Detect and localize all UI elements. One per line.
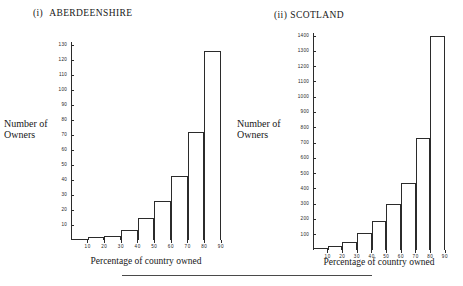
histogram-bar	[188, 132, 205, 240]
panel-title-aberdeenshire: (i)ABERDEENSHIRE	[33, 8, 132, 18]
histogram-bar	[71, 239, 88, 241]
panel-title-text: SCOTLAND	[290, 10, 344, 20]
histogram-bar	[171, 176, 188, 241]
x-tick-mark	[121, 240, 122, 243]
x-tick-mark	[415, 250, 416, 253]
x-tick-label: 40	[135, 244, 141, 250]
histogram-bar	[416, 138, 431, 250]
histogram-bar	[138, 218, 155, 241]
x-tick-label: 90	[442, 254, 448, 260]
y-tick-mark	[313, 66, 316, 67]
plot-area-aberdeenshire: 1020304050607080901001101201301020304050…	[71, 42, 221, 240]
y-tick-label: 70	[61, 131, 67, 138]
x-tick-mark	[430, 250, 431, 253]
histogram-bar	[430, 36, 445, 250]
y-tick-label: 50	[61, 161, 67, 168]
y-tick-mark	[71, 135, 74, 136]
x-tick-label: 20	[101, 244, 107, 250]
y-tick-mark	[313, 36, 316, 37]
y-tick-label: 1000	[298, 93, 309, 100]
footer-rule	[122, 275, 372, 276]
y-tick-mark	[313, 81, 316, 82]
x-tick-label: 90	[218, 244, 224, 250]
y-tick-label: 80	[61, 116, 67, 123]
y-tick-mark	[313, 127, 316, 128]
y-tick-label: 200	[301, 215, 309, 222]
y-tick-mark	[71, 150, 74, 151]
y-tick-label: 100	[59, 86, 67, 93]
histogram-bar	[328, 246, 343, 250]
y-tick-mark	[313, 188, 316, 189]
panel-numeral: (i)	[33, 8, 43, 18]
y-tick-mark	[71, 105, 74, 106]
y-tick-label: 400	[301, 185, 309, 192]
y-tick-label: 20	[61, 206, 67, 213]
panel-numeral: (ii)	[274, 10, 287, 20]
y-tick-label: 800	[301, 124, 309, 131]
y-tick-mark	[313, 204, 316, 205]
y-tick-mark	[71, 165, 74, 166]
x-tick-mark	[187, 240, 188, 243]
y-tick-mark	[71, 195, 74, 196]
x-tick-mark	[445, 250, 446, 253]
y-tick-mark	[313, 234, 316, 235]
x-tick-mark	[371, 250, 372, 253]
y-tick-label: 10	[61, 221, 67, 228]
histogram-bar	[401, 183, 416, 250]
x-tick-mark	[342, 250, 343, 253]
y-tick-mark	[313, 112, 316, 113]
panel-title-text: ABERDEENSHIRE	[49, 8, 132, 18]
y-tick-label: 40	[61, 176, 67, 183]
y-tick-label: 110	[59, 71, 67, 78]
x-tick-label: 10	[85, 244, 91, 250]
y-axis-caption-line1: Number of	[4, 118, 48, 129]
y-tick-label: 600	[301, 154, 309, 161]
y-axis-caption-aberdeenshire: Number of Owners	[4, 118, 48, 140]
x-tick-mark	[87, 240, 88, 243]
y-axis-caption-line2: Owners	[237, 129, 281, 140]
x-tick-mark	[154, 240, 155, 243]
y-tick-label: 1300	[298, 47, 309, 54]
y-axis-caption-line1: Number of	[237, 118, 281, 129]
y-tick-label: 1200	[298, 63, 309, 70]
y-axis-caption-line2: Owners	[4, 129, 48, 140]
plot-area-scotland: 1002003004005006007008009001000110012001…	[313, 33, 445, 250]
y-axis-caption-scotland: Number of Owners	[237, 118, 281, 140]
x-tick-mark	[171, 240, 172, 243]
y-tick-mark	[313, 143, 316, 144]
histogram-bar	[88, 237, 105, 240]
y-tick-label: 300	[301, 200, 309, 207]
y-tick-label: 60	[61, 146, 67, 153]
panel-title-scotland: (ii)SCOTLAND	[274, 10, 344, 20]
x-axis-caption-scotland: Percentage of country owned	[323, 257, 434, 267]
histogram-bar	[121, 230, 138, 241]
histogram-bar	[386, 204, 401, 250]
y-tick-label: 1400	[298, 32, 309, 39]
x-tick-mark	[386, 250, 387, 253]
histogram-bar	[104, 236, 121, 241]
x-tick-label: 60	[168, 244, 174, 250]
x-tick-label: 80	[201, 244, 207, 250]
y-tick-mark	[313, 51, 316, 52]
x-tick-label: 30	[118, 244, 124, 250]
y-tick-mark	[71, 45, 74, 46]
y-tick-label: 100	[301, 231, 309, 238]
y-tick-mark	[71, 120, 74, 121]
x-tick-mark	[221, 240, 222, 243]
x-tick-mark	[204, 240, 205, 243]
y-tick-mark	[71, 60, 74, 61]
y-tick-label: 1100	[298, 78, 309, 85]
histogram-bar	[372, 221, 387, 250]
x-axis-caption-aberdeenshire: Percentage of country owned	[90, 256, 201, 266]
y-tick-label: 900	[301, 108, 309, 115]
y-tick-label: 700	[301, 139, 309, 146]
y-tick-label: 30	[61, 191, 67, 198]
y-tick-mark	[71, 225, 74, 226]
y-tick-mark	[71, 210, 74, 211]
y-tick-mark	[313, 97, 316, 98]
y-tick-mark	[313, 158, 316, 159]
y-tick-mark	[71, 180, 74, 181]
histogram-bar	[154, 201, 171, 240]
y-tick-mark	[71, 90, 74, 91]
x-tick-mark	[104, 240, 105, 243]
